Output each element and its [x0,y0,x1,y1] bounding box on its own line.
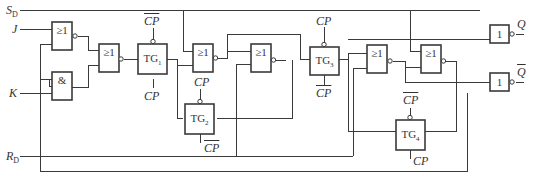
clock-label-tg2-bottom: CP [204,142,219,154]
wire-tg3-nor5 [338,53,367,59]
gate-nor3-symbol: ≥1 [195,47,211,58]
gate-tg1-label: TG1 [138,53,167,67]
bubble-icon [388,59,392,63]
wire-tg1-nor3 [167,59,193,65]
gate-nor6-symbol: ≥1 [423,48,439,59]
jk-flip-flop-schematic: SD J K RD Q Q ≥1 & ≥1 TG1 ≥1 TG2 ≥1 TG3 … [0,0,533,187]
bubble-icon [271,58,275,62]
bubble-icon [322,42,326,46]
input-label-sd: SD [6,4,18,19]
gate-nor2-symbol: ≥1 [101,47,117,58]
bubble-icon [441,59,445,63]
gate-nor1-symbol: ≥1 [54,25,70,36]
bubble-icon [213,56,217,60]
bubble-icon [151,39,155,43]
input-label-rd: RD [6,150,19,165]
gate-tg4-label: TG4 [396,129,425,143]
wire-sd-nor6 [410,10,421,51]
bubble-icon [510,32,514,36]
wire-nor1-nor2 [78,36,99,50]
bubble-icon [198,99,202,103]
wire-qbar-line [405,67,490,82]
clock-label-tg1-top: CP [144,15,159,27]
gate-not1-symbol: 1 [490,29,509,40]
bubble-icon [73,34,77,38]
gate-tg2-label: TG2 [185,113,214,127]
clock-label-tg4-bottom: CP [413,155,428,167]
wire-sd-nor3 [183,10,193,51]
clock-label-nor3: CP [194,76,209,88]
clock-label-tg4-top: CP [403,94,418,106]
clock-label-tg3-bottom: CP [316,87,331,99]
wire-and1-nor2 [71,65,99,87]
wires [20,10,524,171]
clock-label-tg3-top: CP [316,15,331,27]
schematic-canvas [0,0,533,187]
input-label-k: K [9,87,17,99]
gate-not2-symbol: 1 [490,77,509,88]
bubble-icon [510,80,514,84]
bubble-icon [408,115,412,119]
input-label-j: J [12,23,17,35]
clock-label-tg1-bottom: CP [144,90,159,102]
wire-nor3-nor4 [218,51,251,58]
output-label-qbar: Q [517,66,526,78]
gate-and1-symbol: & [54,75,70,86]
output-label-q: Q [517,18,526,30]
bubble-icon [119,57,123,61]
gate-nor5-symbol: ≥1 [369,48,385,59]
gate-nor4-symbol: ≥1 [253,47,269,58]
gate-tg3-label: TG3 [310,55,339,69]
wire-rd-nor5 [353,68,367,156]
wire-nor5-nor6 [393,61,421,67]
wire-tg1-tg2 [177,65,183,118]
